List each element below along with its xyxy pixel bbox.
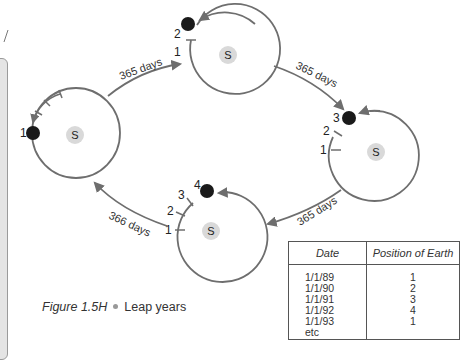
orbit-c: S 3 2 1 [320,111,419,201]
sun-label-c: S [372,146,379,158]
earth-a [26,126,40,140]
panel-corner-line [4,30,8,42]
transition-a-to-b: 365 days [108,55,180,96]
position-column: 1 2 3 4 1 [367,265,460,340]
transition-c-to-d: 365 days [268,190,341,228]
earth-label-d: 4 [194,178,201,192]
tick-label-d-3: 3 [178,188,185,202]
date-cell: etc [305,327,365,338]
position-table: Date Position of Earth 1/1/89 1/1/90 1/1… [288,241,460,340]
bullet-icon [113,304,118,309]
earth-d [200,184,214,198]
sun-label-b: S [224,49,231,61]
sun-label-a: S [71,129,78,141]
days-label-a-b: 365 days [118,55,165,82]
tick-label-d-2: 2 [167,204,174,218]
earth-label-a: 1 [20,126,27,140]
earth-label-c: 3 [333,111,340,125]
header-position: Position of Earth [367,242,460,265]
transition-d-to-a: 366 days [95,183,167,239]
days-label-d-a: 366 days [107,209,153,239]
tick-label-c-2: 2 [323,124,330,138]
position-cell: 1 [368,316,458,327]
earth-label-b: 2 [174,27,181,41]
date-column: 1/1/89 1/1/90 1/1/91 1/1/92 1/1/93 etc [289,265,367,340]
days-label-b-c: 365 days [294,59,340,90]
earth-c [342,111,356,125]
earth-b [181,17,195,31]
tick-label-c-1: 1 [320,143,327,157]
orbit-b: S 2 1 [174,4,280,94]
figure-caption: Figure 1.5HLeap years [42,300,186,314]
orbit-a: S 1 [20,88,120,178]
days-label-c-d: 365 days [295,194,340,228]
tick-label-b-1: 1 [174,45,181,59]
orbit-d: S 4 3 2 1 [165,178,267,282]
transition-b-to-c: 365 days [274,59,343,109]
header-date: Date [289,242,367,265]
figure-title: Leap years [124,300,186,314]
figure-number: Figure 1.5H [42,300,107,314]
sun-label-d: S [207,225,214,237]
